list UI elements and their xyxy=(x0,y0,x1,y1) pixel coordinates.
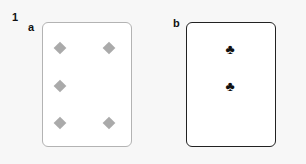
club-icon: ♣ xyxy=(225,79,234,93)
diamond-icon xyxy=(54,80,67,93)
club-icon: ♣ xyxy=(225,42,234,56)
card-b: ♣ ♣ xyxy=(186,22,276,147)
card-a xyxy=(42,22,132,147)
diamond-icon xyxy=(103,42,116,55)
figure-number: 1 xyxy=(12,12,18,23)
diamond-icon xyxy=(54,42,67,55)
panel-label-b: b xyxy=(173,18,180,29)
diamond-icon xyxy=(54,117,67,130)
panel-label-a: a xyxy=(28,22,34,33)
diamond-icon xyxy=(103,117,116,130)
